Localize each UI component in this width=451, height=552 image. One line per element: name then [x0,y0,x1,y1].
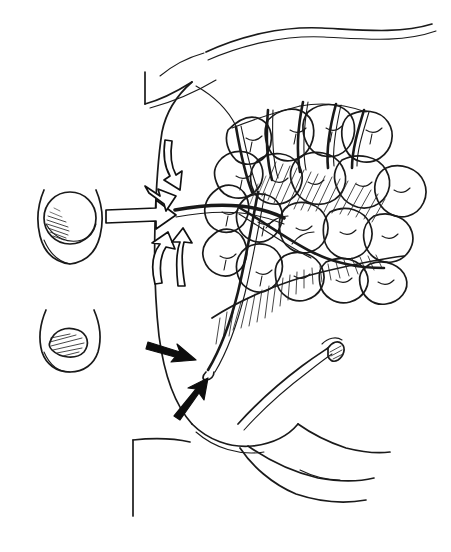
figure-canvas [0,0,451,552]
anatomical-figure [0,0,451,552]
